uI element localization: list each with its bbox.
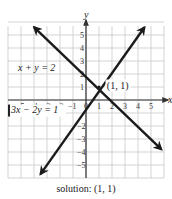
- x-tick-label: 5: [149, 102, 153, 111]
- equation-label-bar: [8, 105, 10, 117]
- x-tick-label: 3: [123, 102, 127, 111]
- y-tick-label: −3: [77, 135, 86, 144]
- y-tick-label: 4: [80, 44, 84, 53]
- x-tick-label: 4: [136, 102, 140, 111]
- x-tick-label: −1: [68, 102, 77, 111]
- equation-label-1: x + y = 2: [17, 62, 55, 73]
- y-tick-label: −2: [77, 122, 86, 131]
- y-tick-label: 1: [80, 83, 84, 92]
- y-axis-label: y: [83, 9, 89, 20]
- solution-caption: solution: (1, 1): [0, 183, 172, 194]
- line-x-plus-y-eq-2: [34, 27, 161, 149]
- y-tick-label: −5: [77, 161, 86, 170]
- equation-label-2: 3x − 2y = 1: [10, 104, 58, 115]
- x-tick-label: 1: [97, 102, 101, 111]
- y-tick-label: 5: [80, 31, 84, 40]
- y-tick-label: 3: [80, 57, 84, 66]
- intersection-point: [98, 86, 101, 89]
- y-tick-label: −4: [77, 148, 86, 157]
- coordinate-graph: xy−5−4−3−2−1012345−5−4−3−212345(1, 1)x +…: [0, 0, 172, 199]
- point-label: (1, 1): [107, 80, 129, 92]
- x-axis-label: x: [167, 94, 172, 105]
